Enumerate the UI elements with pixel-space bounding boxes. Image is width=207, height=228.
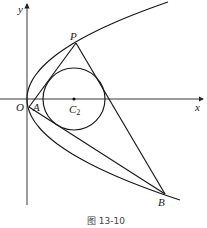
center-c2-label: C2 bbox=[69, 103, 80, 117]
center-c2-dot bbox=[72, 97, 75, 100]
point-b-label: B bbox=[158, 196, 165, 208]
segment-pb bbox=[76, 43, 165, 194]
parabola bbox=[27, 2, 180, 200]
point-a-label: A bbox=[32, 101, 40, 113]
y-axis-label: y bbox=[17, 3, 23, 15]
figure-canvas: y x O A P B C2 图 13-10 bbox=[0, 0, 207, 228]
point-o-label: O bbox=[16, 101, 24, 113]
figure-caption: 图 13-10 bbox=[87, 216, 125, 226]
point-p-label: P bbox=[69, 30, 77, 42]
x-axis-label: x bbox=[194, 101, 200, 113]
